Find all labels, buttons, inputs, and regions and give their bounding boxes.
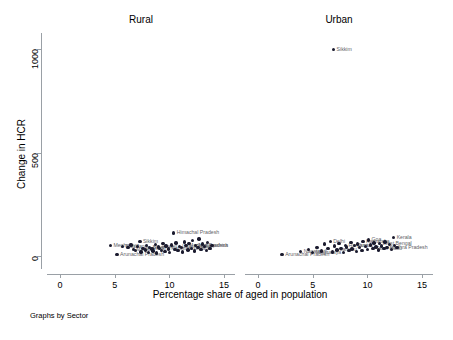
scatter-point xyxy=(174,241,177,244)
x-axis-tick-label: 5 xyxy=(101,280,129,290)
scatter-point xyxy=(193,249,196,252)
scatter-point xyxy=(172,231,175,234)
scatter-point xyxy=(372,241,375,244)
x-axis-tick-label: 10 xyxy=(353,280,381,290)
scatter-point xyxy=(337,242,340,245)
x-axis-tick-label: 0 xyxy=(46,280,74,290)
scatter-point xyxy=(331,250,334,253)
scatter-point xyxy=(339,247,342,250)
scatter-point xyxy=(168,251,171,254)
x-axis-tick-label: 0 xyxy=(244,280,272,290)
scatter-point xyxy=(139,250,142,253)
scatter-point-label: Kerala xyxy=(397,235,412,240)
scatter-point xyxy=(199,248,202,251)
scatter-point xyxy=(366,248,369,251)
scatter-point xyxy=(383,240,386,243)
scatter-point-label: Sikkim xyxy=(337,47,352,52)
scatter-point xyxy=(323,242,326,245)
scatter-point xyxy=(329,240,332,243)
scatter-point xyxy=(355,250,358,253)
scatter-point xyxy=(342,251,345,254)
x-axis-tick-label: 15 xyxy=(408,280,436,290)
scatter-point xyxy=(360,249,363,252)
scatter-point xyxy=(109,244,112,247)
scatter-point xyxy=(163,250,166,253)
scatter-point xyxy=(367,238,370,241)
scatter-point xyxy=(350,247,353,250)
scatter-point xyxy=(335,248,338,251)
scatter-point xyxy=(361,240,364,243)
scatter-point xyxy=(280,253,283,256)
scatter-point xyxy=(121,245,124,248)
scatter-point xyxy=(181,250,184,253)
x-axis-title: Percentage share of aged in population xyxy=(47,289,433,300)
scatter-point xyxy=(138,240,141,243)
x-axis-tick-label: 5 xyxy=(299,280,327,290)
scatter-point xyxy=(129,243,132,246)
scatter-point xyxy=(326,247,329,250)
scatter-point xyxy=(332,48,335,51)
y-axis-line xyxy=(41,33,42,269)
scatter-point xyxy=(320,249,323,252)
x-axis-tick-label: 10 xyxy=(155,280,183,290)
chart-root: Rural Urban Change in HCR Percentage sha… xyxy=(0,0,453,340)
scatter-point xyxy=(392,236,395,239)
scatter-point xyxy=(349,241,352,244)
scatter-point xyxy=(126,246,129,249)
panel-title-urban: Urban xyxy=(245,14,433,25)
x-axis-tick-label: 15 xyxy=(210,280,238,290)
graph-note: Graphs by Sector xyxy=(30,311,88,320)
scatter-point xyxy=(170,243,173,246)
scatter-point xyxy=(385,246,388,249)
scatter-point xyxy=(197,237,200,240)
scatter-point xyxy=(115,253,118,256)
scatter-point xyxy=(315,246,318,249)
scatter-point xyxy=(377,248,380,251)
scatter-point-label: Himachal Pradesh xyxy=(177,230,219,235)
scatter-point xyxy=(155,251,158,254)
plot-area-rural: MeghalayaArunachal PradeshNagalandManipu… xyxy=(47,33,237,276)
panel-title-rural: Rural xyxy=(47,14,235,25)
y-axis-title: Change in HCR xyxy=(16,118,27,188)
plot-area-urban: SikkimArunachal PradeshNagalandMeghalaya… xyxy=(245,33,435,276)
scatter-point xyxy=(176,249,179,252)
